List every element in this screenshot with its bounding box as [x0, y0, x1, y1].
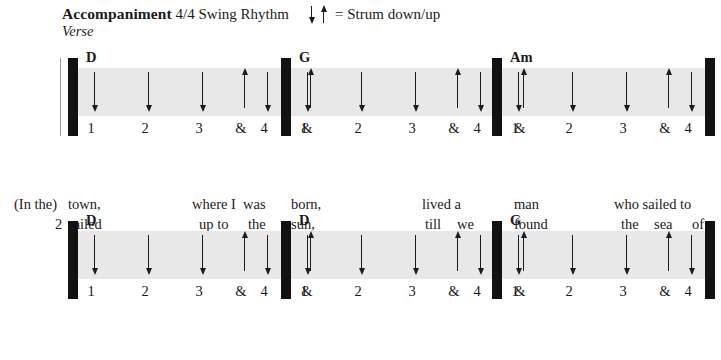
arrow-down-icon — [263, 72, 272, 112]
beat-label: 1 — [295, 283, 313, 299]
barline — [492, 58, 502, 136]
legend-arrow-pair — [307, 5, 333, 24]
arrow-up-icon — [240, 231, 249, 271]
arrow-down-icon — [568, 72, 577, 112]
arrow-down-icon — [514, 72, 523, 112]
arrow-down-icon — [144, 235, 153, 275]
chord-symbol: G — [299, 50, 310, 65]
arrow-down-icon — [357, 72, 366, 112]
header: Accompaniment 4/4 Swing Rhythm Verse = S… — [62, 5, 702, 45]
beat-label: 2 — [136, 283, 154, 299]
beat-label: 3 — [614, 120, 632, 136]
rhythm-band — [78, 68, 705, 116]
title-strong-text: Accompaniment — [62, 5, 172, 22]
arrow-down-icon — [198, 72, 207, 112]
barline — [68, 58, 78, 136]
arrow-up-icon — [453, 68, 462, 108]
arrow-down-icon — [90, 72, 99, 112]
barline-final — [705, 221, 715, 299]
arrow-down-icon — [411, 235, 420, 275]
beat-label: & — [232, 283, 250, 299]
beat-label: 3 — [190, 283, 208, 299]
beat-label: 3 — [403, 283, 421, 299]
arrow-down-icon — [303, 235, 312, 275]
strum-legend: = Strum down/up — [307, 5, 440, 25]
beat-label: & — [232, 120, 250, 136]
beat-label: 1 — [506, 283, 524, 299]
legend-text: = Strum down/up — [335, 5, 440, 24]
accompaniment-title: Accompaniment 4/4 Swing Rhythm — [62, 5, 289, 23]
arrow-down-icon — [476, 235, 485, 275]
staff-area-2: D123&4&D123&4&G123&4& — [0, 211, 721, 309]
beat-label: 1 — [82, 283, 100, 299]
arrow-down-icon — [90, 235, 99, 275]
beat-label: 4 — [255, 120, 273, 136]
chord-symbol: D — [86, 213, 96, 228]
beat-label: 4 — [679, 283, 697, 299]
staff-left-edge-rule — [60, 58, 61, 136]
verse-label: Verse — [62, 23, 93, 39]
beat-label: 2 — [349, 120, 367, 136]
beat-label: & — [445, 283, 463, 299]
arrow-down-icon — [514, 235, 523, 275]
beat-label: 3 — [614, 283, 632, 299]
chord-symbol: G — [510, 213, 521, 228]
beat-label: 3 — [403, 120, 421, 136]
rhythm-band — [78, 231, 705, 279]
arrow-up-icon — [240, 68, 249, 108]
beat-label: 2 — [136, 120, 154, 136]
barline-final — [705, 58, 715, 136]
arrow-up-icon — [453, 231, 462, 271]
title-rhythm-text: 4/4 Swing Rhythm — [172, 6, 289, 22]
beat-label: 2 — [560, 283, 578, 299]
arrow-up-icon — [664, 231, 673, 271]
beat-label: & — [656, 283, 674, 299]
beat-label: 3 — [190, 120, 208, 136]
beat-label: 4 — [679, 120, 697, 136]
barline — [492, 221, 502, 299]
arrow-down-icon — [303, 72, 312, 112]
arrow-down-icon — [687, 72, 696, 112]
beat-label: 2 — [560, 120, 578, 136]
beat-label: 1 — [506, 120, 524, 136]
beat-label: 4 — [255, 283, 273, 299]
beat-label: 1 — [82, 120, 100, 136]
beat-label: & — [656, 120, 674, 136]
barline — [281, 221, 291, 299]
beat-label: 2 — [349, 283, 367, 299]
beat-label: 1 — [295, 120, 313, 136]
arrow-down-icon — [568, 235, 577, 275]
arrow-down-icon — [622, 72, 631, 112]
arrow-down-icon — [144, 72, 153, 112]
chord-symbol: D — [86, 50, 96, 65]
beat-label: 4 — [468, 120, 486, 136]
arrow-up-icon — [319, 5, 328, 23]
arrow-down-icon — [622, 235, 631, 275]
arrow-down-icon — [411, 72, 420, 112]
arrow-down-icon — [357, 235, 366, 275]
barline — [68, 221, 78, 299]
arrow-down-icon — [687, 235, 696, 275]
chord-symbol: D — [299, 213, 309, 228]
arrow-down-icon — [307, 6, 316, 24]
arrow-down-icon — [476, 72, 485, 112]
chord-symbol: Am — [510, 50, 533, 65]
arrow-down-icon — [263, 235, 272, 275]
staff-area-1: D123&4&G123&4&Am123&4& — [0, 48, 721, 146]
arrow-down-icon — [198, 235, 207, 275]
beat-label: 4 — [468, 283, 486, 299]
arrow-up-icon — [664, 68, 673, 108]
beat-label: & — [445, 120, 463, 136]
barline — [281, 58, 291, 136]
